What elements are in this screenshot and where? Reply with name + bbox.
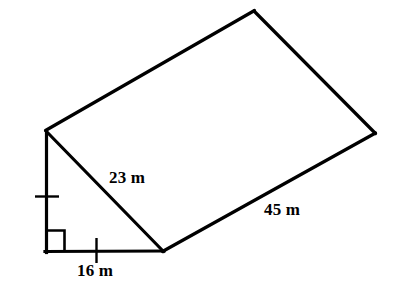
- dimension-label-base: 16 m: [77, 262, 113, 279]
- dimension-label-length: 45 m: [264, 201, 300, 218]
- prism-drawing: [0, 0, 398, 299]
- dimension-label-slant: 23 m: [109, 169, 145, 186]
- front-base-edge: [45, 251, 164, 252]
- prism-figure: 23 m 45 m 16 m: [0, 0, 398, 299]
